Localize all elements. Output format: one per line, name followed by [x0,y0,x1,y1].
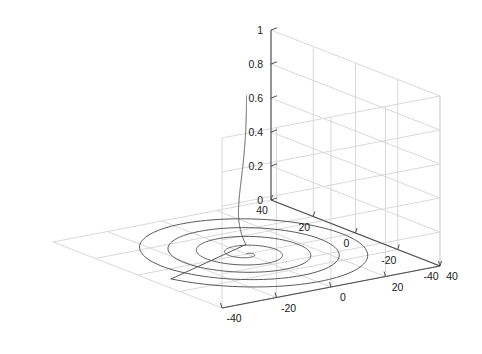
y-tick-label: 40 [446,270,458,282]
y-tick-label: 20 [392,281,404,293]
y-tick-label: -20 [281,302,296,314]
z-tick [271,62,277,64]
x-tick-label: -40 [423,270,438,282]
x-tick-label: 40 [256,204,268,216]
z-tick-label: 0.6 [248,92,263,104]
z-tick [271,96,277,98]
z-tick-label: 0.8 [248,58,263,70]
plot-3d-axes: 00.20.40.60.8140200-20-40-40-2002040 [0,0,482,354]
figure-canvas: 00.20.40.60.8140200-20-40-40-2002040 [0,0,482,354]
z-tick [271,28,277,30]
x-tick-label: -20 [381,254,396,266]
z-tick-label: 1 [257,24,263,36]
z-tick-label: 0.2 [248,160,263,172]
x-tick-label: 0 [344,237,350,249]
vertical-descent-path [171,96,246,279]
z-tick-label: 0.4 [248,126,263,138]
y-tick-label: -40 [226,312,241,324]
data-series-spiral [140,96,368,287]
x-tick-label: 20 [298,221,310,233]
y-tick-label: 0 [340,291,346,303]
